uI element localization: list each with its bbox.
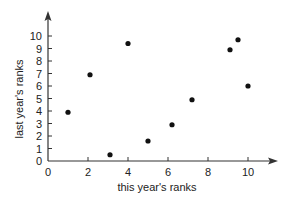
axes: [45, 11, 279, 165]
data-point: [125, 41, 130, 46]
data-point: [245, 83, 250, 88]
x-axis-label: this year's ranks: [117, 181, 197, 193]
data-point: [87, 72, 92, 77]
data-point: [227, 47, 232, 52]
x-tick-label: 6: [165, 166, 171, 178]
y-tick-label: 9: [36, 43, 42, 55]
y-tick-label: 4: [36, 105, 42, 117]
data-point: [235, 37, 240, 42]
data-point: [65, 110, 70, 115]
y-tick-label: 2: [36, 130, 42, 142]
y-tick-label: 1: [36, 143, 42, 155]
y-axis-ticks: 012345678910: [30, 30, 52, 167]
x-tick-label: 2: [85, 166, 91, 178]
x-tick-label: 0: [45, 166, 51, 178]
y-tick-label: 10: [30, 30, 42, 42]
y-tick-label: 3: [36, 118, 42, 130]
data-point: [169, 122, 174, 127]
x-tick-label: 10: [242, 166, 254, 178]
x-axis-ticks: 0246810: [45, 157, 254, 178]
data-point: [145, 138, 150, 143]
data-point: [107, 152, 112, 157]
data-points: [65, 37, 250, 157]
y-tick-label: 5: [36, 93, 42, 105]
y-tick-label: 6: [36, 80, 42, 92]
scatter-chart: 0246810 012345678910 this year's ranks l…: [0, 0, 291, 199]
y-tick-label: 8: [36, 55, 42, 67]
y-axis-label: last year's ranks: [13, 59, 25, 139]
x-tick-label: 4: [125, 166, 131, 178]
y-tick-label: 0: [36, 155, 42, 167]
data-point: [189, 97, 194, 102]
y-tick-label: 7: [36, 68, 42, 80]
x-tick-label: 8: [205, 166, 211, 178]
